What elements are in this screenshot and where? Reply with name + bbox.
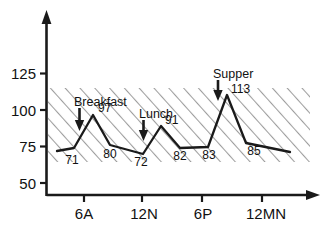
- data-label-113: 113: [231, 82, 250, 96]
- x-tick-label-12mn: 12MN: [246, 205, 286, 222]
- data-label-71: 71: [65, 153, 79, 167]
- glucose-line-chart: 125 100 75 50 6A 12N 6P 12MN 71 97 80 72…: [0, 0, 326, 232]
- y-tick-label-100: 100: [11, 102, 36, 119]
- data-label-82: 82: [173, 149, 187, 163]
- data-label-80: 80: [103, 147, 117, 161]
- x-tick-label-6p: 6P: [194, 205, 212, 222]
- y-tick-label-50: 50: [19, 175, 36, 192]
- x-tick-label-12n: 12N: [130, 205, 158, 222]
- data-label-83: 83: [202, 148, 216, 162]
- y-tick-label-125: 125: [11, 65, 36, 82]
- annotation-label-breakfast: Breakfast: [74, 95, 127, 109]
- y-tick-label-75: 75: [19, 138, 36, 155]
- data-label-85: 85: [247, 144, 261, 158]
- annotation-label-supper: Supper: [213, 67, 253, 81]
- annotation-label-lunch: Lunch: [139, 107, 173, 121]
- data-label-72: 72: [134, 155, 148, 169]
- chart-canvas: 125 100 75 50 6A 12N 6P 12MN 71 97 80 72…: [0, 0, 326, 232]
- x-axis: [47, 190, 321, 200]
- x-tick-label-6a: 6A: [75, 205, 93, 222]
